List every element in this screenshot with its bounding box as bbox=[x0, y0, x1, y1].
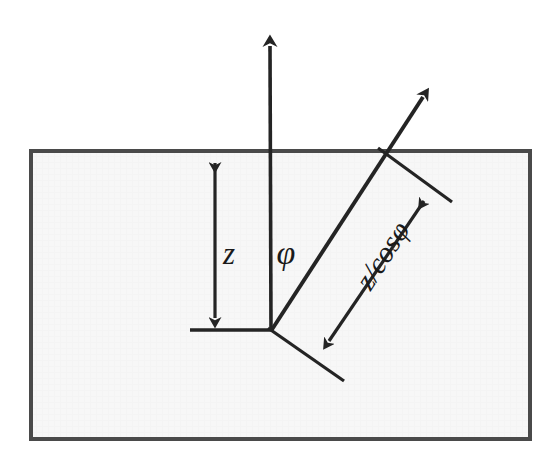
figure-root: z φ z/cosφ bbox=[0, 0, 553, 464]
diagram-canvas: z φ z/cosφ bbox=[0, 0, 553, 464]
depth-label: z bbox=[222, 236, 235, 271]
angle-label: φ bbox=[277, 234, 296, 271]
normal-axis-arrow bbox=[270, 46, 271, 331]
medium-rectangle bbox=[31, 151, 530, 439]
